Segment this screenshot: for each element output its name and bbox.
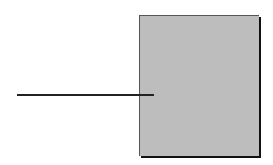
leader-line [17, 94, 154, 96]
shaded-rectangle [139, 15, 259, 156]
